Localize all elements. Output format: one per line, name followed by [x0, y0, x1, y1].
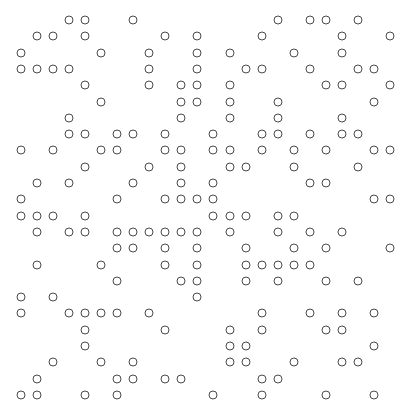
- circle-marker: [257, 146, 266, 155]
- circle-marker: [289, 48, 298, 57]
- circle-marker: [97, 97, 106, 106]
- circle-marker: [321, 81, 330, 90]
- circle-marker: [305, 179, 314, 188]
- circle-marker: [81, 325, 90, 334]
- circle-marker: [49, 64, 58, 73]
- circle-marker: [193, 260, 202, 269]
- circle-marker: [17, 293, 26, 302]
- circle-marker: [321, 244, 330, 253]
- circle-marker: [353, 358, 362, 367]
- circle-marker: [369, 64, 378, 73]
- circle-marker: [65, 16, 74, 25]
- circle-marker: [241, 211, 250, 220]
- circle-marker: [113, 390, 122, 399]
- circle-marker: [113, 195, 122, 204]
- circle-marker: [161, 374, 170, 383]
- circle-marker: [225, 81, 234, 90]
- circle-marker: [305, 227, 314, 236]
- circle-marker: [113, 244, 122, 253]
- circle-marker: [337, 227, 346, 236]
- circle-marker: [193, 81, 202, 90]
- circle-marker: [129, 227, 138, 236]
- circle-marker: [193, 48, 202, 57]
- circle-marker: [81, 32, 90, 41]
- circle-marker: [305, 309, 314, 318]
- circle-marker: [369, 146, 378, 155]
- circle-marker: [177, 97, 186, 106]
- circle-marker: [225, 358, 234, 367]
- circle-marker: [385, 244, 394, 253]
- circle-marker: [113, 309, 122, 318]
- circle-marker: [321, 276, 330, 285]
- circle-marker: [33, 227, 42, 236]
- circle-marker: [145, 309, 154, 318]
- circle-marker: [81, 309, 90, 318]
- circle-marker: [257, 390, 266, 399]
- circle-marker: [321, 146, 330, 155]
- circle-marker: [193, 293, 202, 302]
- circle-marker: [81, 81, 90, 90]
- circle-marker: [385, 81, 394, 90]
- circle-marker: [177, 195, 186, 204]
- circle-marker: [225, 342, 234, 351]
- circle-marker: [113, 130, 122, 139]
- circle-marker: [177, 113, 186, 122]
- circle-marker: [193, 276, 202, 285]
- circle-marker: [145, 162, 154, 171]
- circle-marker: [289, 146, 298, 155]
- circle-marker: [369, 342, 378, 351]
- circle-marker: [209, 211, 218, 220]
- circle-marker: [161, 244, 170, 253]
- circle-marker: [225, 325, 234, 334]
- circle-marker: [305, 130, 314, 139]
- circle-marker: [33, 179, 42, 188]
- circle-marker: [161, 260, 170, 269]
- circle-marker: [257, 260, 266, 269]
- circle-marker: [273, 16, 282, 25]
- circle-marker: [337, 48, 346, 57]
- circle-marker: [321, 179, 330, 188]
- circle-marker: [33, 64, 42, 73]
- circle-marker: [97, 260, 106, 269]
- circle-marker: [353, 162, 362, 171]
- circle-marker: [177, 374, 186, 383]
- circle-marker: [225, 146, 234, 155]
- circle-marker: [65, 179, 74, 188]
- circle-marker: [337, 358, 346, 367]
- circle-marker: [209, 390, 218, 399]
- circle-marker: [225, 113, 234, 122]
- circle-marker: [49, 358, 58, 367]
- circle-marker: [289, 244, 298, 253]
- circle-marker: [65, 130, 74, 139]
- circle-marker: [113, 227, 122, 236]
- circle-marker: [17, 146, 26, 155]
- circle-marker: [193, 32, 202, 41]
- circle-marker: [225, 211, 234, 220]
- circle-marker: [289, 211, 298, 220]
- circle-marker: [241, 342, 250, 351]
- circle-marker: [129, 130, 138, 139]
- circle-marker: [129, 16, 138, 25]
- circle-marker: [289, 260, 298, 269]
- circle-marker: [257, 64, 266, 73]
- circle-marker: [33, 32, 42, 41]
- circle-marker: [65, 113, 74, 122]
- circle-marker: [177, 162, 186, 171]
- circle-marker: [273, 276, 282, 285]
- circle-marker: [49, 146, 58, 155]
- circle-marker: [17, 64, 26, 73]
- circle-marker: [17, 211, 26, 220]
- circle-marker: [337, 309, 346, 318]
- circle-marker: [257, 130, 266, 139]
- circle-marker: [49, 211, 58, 220]
- circle-marker: [161, 227, 170, 236]
- circle-marker: [241, 276, 250, 285]
- circle-marker: [145, 48, 154, 57]
- circle-marker: [321, 16, 330, 25]
- circle-marker: [81, 390, 90, 399]
- circle-marker: [161, 325, 170, 334]
- circle-marker: [337, 81, 346, 90]
- circle-marker: [145, 64, 154, 73]
- circle-marker: [209, 130, 218, 139]
- circle-marker: [241, 162, 250, 171]
